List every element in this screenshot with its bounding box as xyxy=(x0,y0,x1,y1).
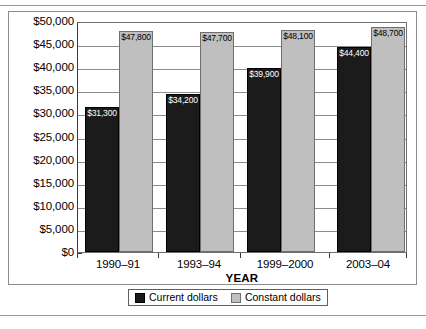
black-square-swatch-icon xyxy=(135,293,145,303)
y-tick-label: $35,000 xyxy=(2,85,74,96)
bar-constant-1990-91: $47,800 xyxy=(119,31,153,252)
y-axis: $50,000 $45,000 $40,000 $35,000 $30,000 … xyxy=(0,0,74,329)
y-tick-label: $15,000 xyxy=(2,178,74,189)
bar-value-label: $44,400 xyxy=(338,49,370,58)
bar-current-1990-91: $31,300 xyxy=(85,107,119,252)
bar-value-label: $34,200 xyxy=(167,96,199,105)
y-tick-label: $0 xyxy=(2,247,74,258)
bar-constant-2003-04: $48,700 xyxy=(371,27,405,252)
bar-current-2003-04: $44,400 xyxy=(337,47,371,252)
y-tick-label: $10,000 xyxy=(2,201,74,212)
bar-constant-1993-94: $47,700 xyxy=(200,32,234,252)
y-tick-label: $40,000 xyxy=(2,62,74,73)
legend-label: Constant dollars xyxy=(245,292,321,303)
gray-square-swatch-icon xyxy=(231,293,241,303)
x-tick-mark xyxy=(406,253,407,258)
y-tick-label: $30,000 xyxy=(2,108,74,119)
x-tick-label: 1990–91 xyxy=(78,258,158,271)
y-tick-label: $45,000 xyxy=(2,39,74,50)
plot-area: $31,300 $47,800 $34,200 $47,700 $39,900 … xyxy=(77,22,407,253)
y-tick-label: $25,000 xyxy=(2,132,74,143)
legend-item-constant-dollars: Constant dollars xyxy=(231,292,321,303)
bar-value-label: $31,300 xyxy=(86,109,118,118)
bar-value-label: $47,700 xyxy=(201,34,233,43)
bar-current-1993-94: $34,200 xyxy=(166,94,200,252)
chart-page: $50,000 $45,000 $40,000 $35,000 $30,000 … xyxy=(0,0,426,329)
x-tick-label: 1999–2000 xyxy=(241,258,329,271)
x-axis-title: YEAR xyxy=(77,272,407,284)
y-tick-label: $5,000 xyxy=(2,224,74,235)
legend-item-current-dollars: Current dollars xyxy=(135,292,218,303)
bar-current-1999-2000: $39,900 xyxy=(247,68,281,252)
y-tick-label: $20,000 xyxy=(2,155,74,166)
chart-legend: Current dollars Constant dollars xyxy=(128,289,328,306)
bar-constant-1999-2000: $48,100 xyxy=(281,30,315,252)
bar-value-label: $47,800 xyxy=(120,33,152,42)
x-tick-label: 1993–94 xyxy=(159,258,239,271)
bar-value-label: $48,700 xyxy=(372,29,404,38)
bar-value-label: $39,900 xyxy=(248,70,280,79)
bar-value-label: $48,100 xyxy=(282,32,314,41)
legend-label: Current dollars xyxy=(149,292,218,303)
x-tick-label: 2003–04 xyxy=(330,258,406,271)
y-tick-label: $50,000 xyxy=(2,16,74,27)
